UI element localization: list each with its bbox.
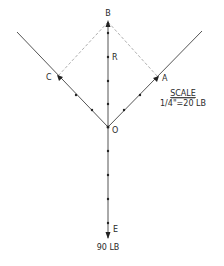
force-diagram: B R C A O E 90 LB SCALE 1/4"=20 LB — [0, 0, 224, 266]
scale-value: 1/4"=20 LB — [160, 99, 206, 108]
dashed-line-b-c — [58, 22, 108, 76]
load-label: 90 LB — [97, 243, 120, 252]
arrow-head-c-icon — [57, 75, 63, 81]
label-b: B — [105, 9, 111, 18]
label-e: E — [113, 225, 118, 234]
label-c: C — [46, 73, 52, 82]
label-r: R — [112, 53, 118, 62]
dashed-line-b-a — [108, 22, 158, 77]
arrow-head-e-icon — [106, 232, 111, 239]
label-o: O — [112, 126, 118, 135]
label-a: A — [162, 74, 168, 83]
arrow-head-a-icon — [153, 76, 159, 82]
scale-title: SCALE — [170, 89, 196, 98]
line-left-member — [17, 32, 108, 127]
